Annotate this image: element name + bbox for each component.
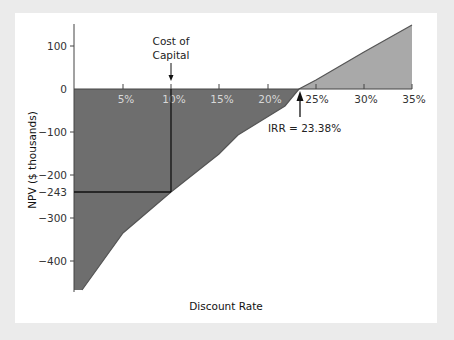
x-tick-labels: 5% 10% 15% 20% 25% 30% 35% bbox=[118, 93, 426, 105]
svg-text:100: 100 bbox=[47, 40, 67, 52]
svg-text:30%: 30% bbox=[354, 93, 377, 105]
svg-text:−100: −100 bbox=[38, 126, 67, 138]
svg-text:20%: 20% bbox=[258, 93, 281, 105]
y-tick-labels: 100 0 −100 −200 −243 −300 −400 bbox=[38, 40, 67, 267]
x-axis-title: Discount Rate bbox=[189, 300, 263, 312]
negative-npv-area bbox=[74, 89, 299, 290]
arrow-up-icon bbox=[297, 91, 304, 101]
svg-text:−200: −200 bbox=[38, 169, 67, 181]
svg-text:−243: −243 bbox=[38, 186, 67, 198]
svg-text:0: 0 bbox=[60, 83, 67, 95]
svg-text:15%: 15% bbox=[210, 93, 233, 105]
cost-of-capital-label-2: Capital bbox=[153, 49, 190, 61]
cost-of-capital-label-1: Cost of bbox=[153, 35, 190, 47]
svg-text:−400: −400 bbox=[38, 255, 67, 267]
arrow-down-icon bbox=[169, 75, 174, 81]
y-ticks bbox=[70, 46, 74, 261]
svg-text:35%: 35% bbox=[402, 93, 425, 105]
irr-label: IRR = 23.38% bbox=[268, 122, 341, 134]
svg-text:−300: −300 bbox=[38, 212, 67, 224]
npv-chart: 5% 10% 15% 20% 25% 30% 35% 100 0 −100 −2… bbox=[0, 0, 454, 340]
svg-text:10%: 10% bbox=[162, 93, 185, 105]
svg-text:5%: 5% bbox=[118, 93, 135, 105]
y-axis-title: NPV ($ thousands) bbox=[26, 111, 38, 208]
svg-text:25%: 25% bbox=[305, 93, 328, 105]
